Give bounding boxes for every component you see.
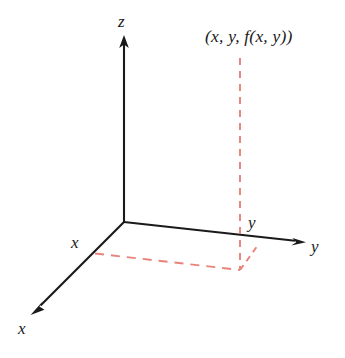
figure-root: z y x x y (x, y, f(x, y)) <box>0 0 345 358</box>
y-axis-arrowhead <box>291 238 306 246</box>
z-axis-label: z <box>118 13 125 30</box>
y-axis-line <box>124 222 295 241</box>
y-projection-line <box>240 247 257 271</box>
x-axis-label: x <box>18 320 26 337</box>
inner-x-label: x <box>71 234 79 251</box>
inner-y-label: y <box>248 214 256 231</box>
x-projection-line <box>95 254 240 271</box>
axes-diagram-canvas <box>0 0 345 358</box>
x-axis-line <box>41 222 125 306</box>
y-axis-label: y <box>311 238 319 255</box>
point-coordinate-label: (x, y, f(x, y)) <box>205 28 293 46</box>
